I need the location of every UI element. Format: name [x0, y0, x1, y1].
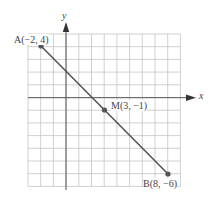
y-axis-arrow-icon — [63, 22, 69, 32]
point-B — [165, 171, 170, 176]
point-A-label: A(−2, 4) — [14, 34, 49, 45]
coordinate-plane — [0, 0, 208, 201]
y-axis — [63, 22, 69, 190]
point-B-label: B(8, −6) — [143, 178, 177, 189]
point-M — [102, 107, 107, 112]
point-M-label: M(3, −1) — [111, 100, 147, 111]
x-axis-arrow-icon — [186, 95, 196, 102]
y-axis-label: y — [62, 10, 66, 21]
x-axis-label: x — [199, 90, 203, 101]
